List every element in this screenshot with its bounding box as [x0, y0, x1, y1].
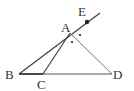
segment-AD	[70, 33, 112, 74]
angle-mark-EAD	[79, 34, 81, 36]
label-C: C	[37, 77, 46, 91]
angle-mark-CAD	[71, 41, 73, 43]
label-B: B	[5, 67, 14, 82]
label-D: D	[113, 67, 122, 82]
geometry-diagram: A B C D E	[0, 0, 134, 91]
label-E: E	[78, 4, 86, 19]
label-A: A	[61, 20, 71, 35]
point-E	[85, 20, 89, 24]
